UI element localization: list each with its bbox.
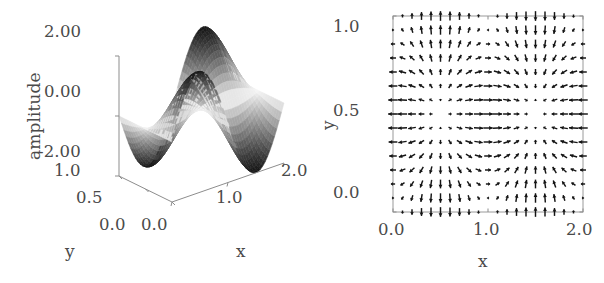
field-y-tick-05: 0.5	[333, 103, 360, 120]
surface-x-axis-label: x	[236, 243, 246, 260]
z-tick-neg2: -2.00	[38, 144, 81, 161]
y-tick-0: 0.0	[99, 217, 126, 234]
field-x-tick-1: 1.0	[473, 222, 500, 239]
field-x-tick-0: 0.0	[378, 222, 405, 239]
z-tick-2: 2.00	[44, 24, 81, 41]
field-x-axis-label: x	[478, 253, 488, 270]
field-y-axis-label: y	[320, 120, 337, 130]
surface-mesh	[119, 26, 284, 173]
y-tick-05: 0.5	[76, 190, 103, 207]
surface-y-axis-label: y	[65, 243, 75, 260]
field-x-tick-2: 2.0	[566, 222, 593, 239]
x-tick-1: 1.0	[216, 190, 243, 207]
surface-plot-panel: amplitude 2.00 0.00 -2.00 1.0 0.5 0.0 y …	[0, 0, 302, 283]
y-tick-1: 1.0	[54, 163, 81, 180]
vector-field-canvas	[302, 0, 604, 283]
figure-root: amplitude 2.00 0.00 -2.00 1.0 0.5 0.0 y …	[0, 0, 604, 283]
field-y-tick-1: 1.0	[333, 19, 360, 36]
x-tick-0: 0.0	[141, 217, 168, 234]
vector-field-arrows	[388, 11, 588, 217]
field-y-tick-0: 0.0	[333, 185, 360, 202]
z-tick-0: 0.00	[44, 84, 81, 101]
vector-field-panel: y 1.0 0.5 0.0 0.0 1.0 2.0 x	[302, 0, 604, 283]
